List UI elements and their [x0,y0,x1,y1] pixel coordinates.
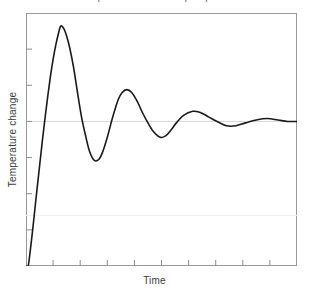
gridlines [26,121,297,215]
response-curve [26,26,297,266]
x-axis-ticks [53,260,270,266]
figure-caption-strip: Underdamped second-order step response [0,0,309,7]
x-axis-label: Time [0,275,309,286]
figure-container: Underdamped second-order step response T… [0,0,309,291]
y-axis-label: Temperature change [7,65,18,215]
step-response-plot [26,13,297,266]
y-axis-ticks [26,49,32,230]
y-axis-label-wrap: Temperature change [0,0,20,291]
figure-caption: Underdamped second-order step response [55,0,230,2]
